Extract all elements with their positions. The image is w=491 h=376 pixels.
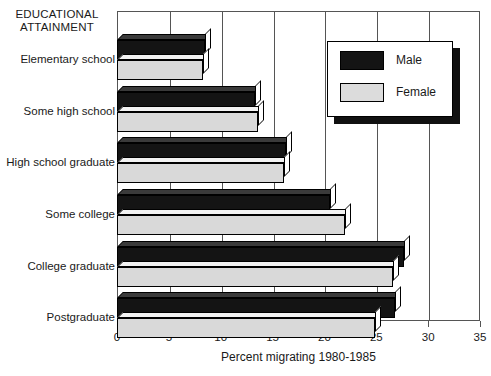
category-label-5: Postgraduate	[0, 311, 115, 323]
bar-front-face	[117, 60, 203, 80]
category-label-1: Some high school	[0, 105, 115, 117]
y-axis-title-line-2: ATTAINMENT	[0, 21, 114, 34]
bar-chart: EDUCATIONAL ATTAINMENT 05101520253035Ele…	[0, 0, 491, 376]
bar-female-row-4	[117, 267, 393, 287]
x-tick-35	[480, 321, 481, 327]
bar-female-row-1	[117, 112, 258, 132]
bar-front-face	[117, 163, 284, 183]
x-tick-label-35: 35	[465, 331, 491, 343]
y-axis-title: EDUCATIONAL ATTAINMENT	[0, 8, 114, 34]
category-label-4: College graduate	[0, 260, 115, 272]
bar-front-face	[117, 267, 393, 287]
female-swatch-icon	[340, 83, 384, 102]
chart-legend: Male Female	[327, 41, 453, 117]
bar-female-row-0	[117, 60, 203, 80]
y-axis-title-line-1: EDUCATIONAL	[0, 8, 114, 21]
bar-side-face	[375, 306, 381, 332]
category-label-3: Some college	[0, 208, 115, 220]
x-tick-30	[428, 321, 429, 327]
bar-front-face	[117, 318, 375, 338]
x-axis-title: Percent migrating 1980-1985	[117, 350, 480, 364]
bar-female-row-5	[117, 318, 375, 338]
bar-front-face	[117, 215, 345, 235]
legend-label-male: Male	[396, 53, 422, 67]
category-label-0: Elementary school	[0, 53, 115, 65]
male-swatch-icon	[340, 51, 384, 70]
legend-label-female: Female	[396, 85, 436, 99]
bar-female-row-2	[117, 163, 284, 183]
category-label-2: High school graduate	[0, 156, 115, 168]
bar-female-row-3	[117, 215, 345, 235]
x-tick-label-30: 30	[413, 331, 443, 343]
bar-front-face	[117, 112, 258, 132]
